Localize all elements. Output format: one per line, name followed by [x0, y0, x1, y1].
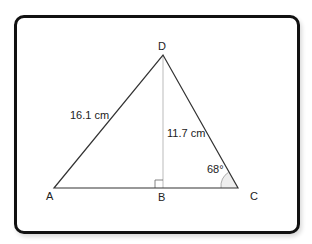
vertex-label-a: A [46, 190, 53, 202]
triangle-figure [0, 0, 312, 244]
vertex-label-c: C [250, 190, 258, 202]
side-ad-length: 16.1 cm [70, 109, 109, 121]
right-angle-marker [155, 180, 163, 188]
vertex-label-d: D [158, 40, 166, 52]
vertex-label-b: B [158, 191, 165, 203]
angle-c-label: 68° [207, 163, 224, 175]
height-db-length: 11.7 cm [167, 127, 205, 139]
